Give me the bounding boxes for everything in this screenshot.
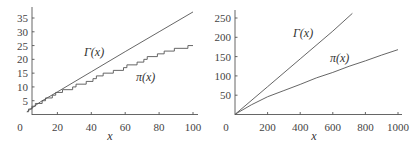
y-tick-label: 100 xyxy=(215,70,232,82)
x-tick-label: 1000 xyxy=(387,121,410,133)
y-tick-label: 25 xyxy=(17,40,29,52)
x-tick-label: 60 xyxy=(120,121,132,133)
y-tick-label: 35 xyxy=(17,12,29,24)
y-tick-label: 20 xyxy=(17,53,29,65)
left-x-ticks: 20406080100 xyxy=(52,112,202,133)
right-pi-label: π(x) xyxy=(330,51,349,65)
right-plot: 50100150200250 2004006008001000 0 Γ(x) π… xyxy=(215,10,410,143)
left-gamma-curve xyxy=(27,12,193,112)
x-tick-label: 600 xyxy=(325,121,342,133)
right-y-ticks: 50100150200250 xyxy=(215,12,238,101)
right-pi-curve xyxy=(235,50,398,114)
x-tick-label: 40 xyxy=(86,121,98,133)
x-tick-label: 20 xyxy=(52,121,64,133)
y-tick-label: 30 xyxy=(17,26,29,38)
x-tick-label: 800 xyxy=(357,121,374,133)
right-x-ticks: 2004006008001000 xyxy=(259,112,409,133)
x-tick-label: 400 xyxy=(292,121,309,133)
y-tick-label: 150 xyxy=(215,51,232,63)
y-tick-label: 15 xyxy=(17,67,29,79)
left-pi-label: π(x) xyxy=(136,70,155,84)
y-tick-label: 50 xyxy=(220,89,232,101)
left-pi-curve xyxy=(27,46,193,112)
y-tick-label: 5 xyxy=(23,95,29,107)
x-tick-label: 100 xyxy=(185,121,202,133)
right-origin-label: 0 xyxy=(223,121,229,133)
left-x-axis-label: x xyxy=(106,129,113,143)
y-tick-label: 10 xyxy=(17,81,29,93)
x-tick-label: 80 xyxy=(154,121,166,133)
y-tick-label: 200 xyxy=(215,31,232,43)
left-plot: 5101520253035 20406080100 0 Γ(x) π(x) x xyxy=(17,7,202,143)
left-origin-label: 0 xyxy=(17,121,23,133)
x-tick-label: 200 xyxy=(259,121,276,133)
chart-figure: 5101520253035 20406080100 0 Γ(x) π(x) x … xyxy=(0,0,419,144)
y-tick-label: 250 xyxy=(215,12,232,24)
left-gamma-label: Γ(x) xyxy=(83,45,104,59)
right-gamma-label: Γ(x) xyxy=(292,26,313,40)
right-x-axis-label: x xyxy=(310,129,317,143)
